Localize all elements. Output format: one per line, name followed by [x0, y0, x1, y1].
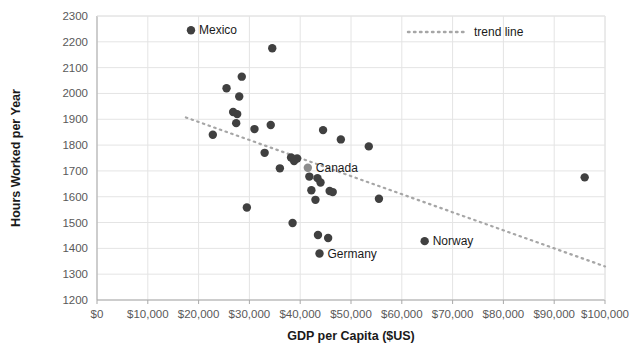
data-point — [276, 164, 284, 172]
data-point — [311, 196, 319, 204]
data-point — [316, 178, 324, 186]
data-point — [365, 142, 373, 150]
data-point — [420, 237, 428, 245]
data-point — [324, 234, 332, 242]
y-tick-label: 2100 — [62, 62, 88, 74]
y-tick-label: 1300 — [62, 268, 88, 280]
x-axis-tick-labels: $0$10,000$20,000$30,000$40,000$50,000$60… — [91, 300, 629, 320]
data-point — [268, 44, 276, 52]
data-point — [307, 186, 315, 194]
y-tick-label: 1200 — [62, 294, 88, 306]
y-axis-tick-labels: 1200130014001500160017001800190020002100… — [62, 10, 88, 306]
x-tick-label: $50,000 — [330, 308, 372, 320]
data-point-label: Canada — [316, 161, 358, 175]
data-point — [337, 135, 345, 143]
data-point — [187, 26, 195, 34]
data-point — [314, 231, 322, 239]
data-point — [375, 195, 383, 203]
y-tick-label: 1500 — [62, 217, 88, 229]
x-tick-label: $10,000 — [127, 308, 169, 320]
y-axis-title: Hours Worked per Year — [9, 89, 23, 227]
data-point-label: Mexico — [199, 23, 237, 37]
y-tick-label: 1600 — [62, 191, 88, 203]
x-tick-label: $70,000 — [432, 308, 474, 320]
data-point — [267, 121, 275, 129]
data-point — [290, 157, 298, 165]
y-tick-label: 2300 — [62, 10, 88, 22]
data-point — [238, 72, 246, 80]
data-point — [260, 149, 268, 157]
chart-canvas: $0$10,000$20,000$30,000$40,000$50,000$60… — [0, 0, 636, 358]
data-point — [305, 172, 313, 180]
y-tick-label: 1800 — [62, 139, 88, 151]
x-tick-label: $60,000 — [381, 308, 423, 320]
x-axis-title: GDP per Capita ($US) — [287, 329, 415, 343]
scatter-chart-container: $0$10,000$20,000$30,000$40,000$50,000$60… — [0, 0, 636, 358]
x-tick-label: $0 — [91, 308, 104, 320]
x-tick-label: $20,000 — [178, 308, 220, 320]
data-point — [315, 249, 323, 257]
x-tick-label: $100,000 — [581, 308, 629, 320]
y-tick-label: 2000 — [62, 87, 88, 99]
legend-label-trend-line: trend line — [474, 25, 524, 39]
data-point — [329, 188, 337, 196]
data-point-label: Norway — [433, 234, 474, 248]
data-point-label: Germany — [328, 247, 377, 261]
y-tick-label: 2200 — [62, 36, 88, 48]
data-point — [580, 173, 588, 181]
x-tick-label: $40,000 — [279, 308, 321, 320]
y-tick-label: 1700 — [62, 165, 88, 177]
data-point — [233, 110, 241, 118]
data-point — [243, 203, 251, 211]
data-point — [235, 92, 243, 100]
y-tick-label: 1900 — [62, 113, 88, 125]
data-point — [232, 119, 240, 127]
y-tick-label: 1400 — [62, 242, 88, 254]
data-point — [250, 125, 258, 133]
data-point — [209, 131, 217, 139]
x-tick-label: $80,000 — [483, 308, 525, 320]
x-tick-label: $30,000 — [229, 308, 271, 320]
data-point — [288, 219, 296, 227]
x-tick-label: $90,000 — [533, 308, 575, 320]
data-point — [319, 126, 327, 134]
data-point — [222, 84, 230, 92]
data-point — [304, 164, 312, 172]
